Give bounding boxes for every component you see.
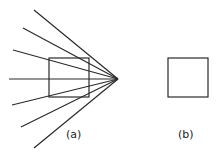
ray-1	[34, 10, 118, 79]
ray-2	[23, 28, 118, 79]
label-a: (a)	[66, 128, 81, 141]
panel-b	[168, 58, 208, 97]
panel-a	[9, 10, 118, 148]
square-b	[168, 58, 208, 97]
ray-3	[13, 50, 118, 79]
illusion-figure: (a) (b)	[0, 0, 220, 157]
ray-6	[21, 79, 118, 127]
label-b: (b)	[178, 128, 194, 141]
